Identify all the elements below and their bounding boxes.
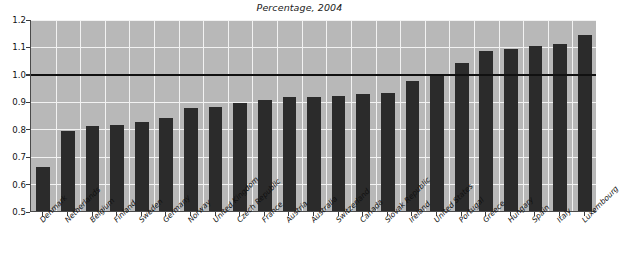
vertical-gridline: [400, 20, 401, 211]
bar: [159, 118, 173, 211]
bar: [381, 93, 395, 211]
vertical-gridline: [449, 20, 450, 211]
vertical-gridline: [499, 20, 500, 211]
y-axis-tick-label: 0.7: [0, 152, 26, 162]
horizontal-gridline: [31, 47, 596, 48]
y-axis-tick-label: 1.1: [0, 42, 26, 52]
vertical-gridline: [376, 20, 377, 211]
plot-area: [30, 20, 596, 212]
y-axis-tick-label: 0.5: [0, 207, 26, 217]
y-axis-tick-label: 0.8: [0, 125, 26, 135]
vertical-gridline: [326, 20, 327, 211]
vertical-gridline: [80, 20, 81, 211]
vertical-gridline: [474, 20, 475, 211]
y-axis-tick-label: 1.2: [0, 15, 26, 25]
bar: [135, 122, 149, 211]
vertical-gridline: [572, 20, 573, 211]
bar: [578, 35, 592, 211]
bar: [209, 107, 223, 211]
horizontal-gridline: [31, 20, 596, 21]
vertical-gridline: [203, 20, 204, 211]
vertical-gridline: [302, 20, 303, 211]
y-axis-tick-label: 0.6: [0, 180, 26, 190]
bar: [283, 97, 297, 211]
vertical-gridline: [129, 20, 130, 211]
chart-title: Percentage, 2004: [0, 2, 599, 13]
vertical-gridline: [179, 20, 180, 211]
bar: [430, 74, 444, 211]
vertical-gridline: [154, 20, 155, 211]
vertical-gridline: [105, 20, 106, 211]
vertical-gridline: [351, 20, 352, 211]
vertical-gridline: [548, 20, 549, 211]
y-axis-tick-label: 0.9: [0, 97, 26, 107]
reference-line-1: [31, 74, 596, 75]
bar: [529, 46, 543, 211]
bar: [36, 167, 50, 211]
bar: [307, 97, 321, 211]
y-axis-tick-label: 1.0: [0, 70, 26, 80]
vertical-gridline: [523, 20, 524, 211]
bar: [553, 44, 567, 211]
vertical-gridline: [56, 20, 57, 211]
vertical-gridline: [228, 20, 229, 211]
